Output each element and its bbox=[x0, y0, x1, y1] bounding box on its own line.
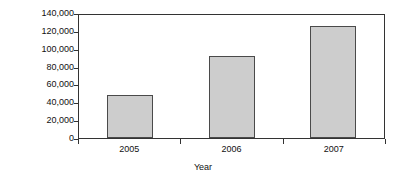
y-tick-mark bbox=[74, 85, 79, 86]
plot-area bbox=[78, 14, 385, 139]
bar-2006[interactable] bbox=[209, 56, 255, 138]
y-tick-label: 60,000 bbox=[46, 80, 74, 89]
x-tick-label-2005: 2005 bbox=[78, 144, 180, 154]
bar-series bbox=[79, 15, 384, 138]
y-tick-mark bbox=[74, 50, 79, 51]
y-tick-label: 80,000 bbox=[46, 63, 74, 72]
y-tick-mark bbox=[74, 68, 79, 69]
y-tick-label: 100,000 bbox=[41, 45, 74, 54]
x-tick-mark bbox=[385, 139, 386, 144]
x-tick-label-2007: 2007 bbox=[283, 144, 385, 154]
bar-chart-figure: Volume 020,00040,00060,00080,000100,0001… bbox=[0, 0, 406, 182]
y-tick-label: 140,000 bbox=[41, 9, 74, 18]
y-tick-label: 120,000 bbox=[41, 27, 74, 36]
x-axis-label: Year bbox=[0, 162, 406, 172]
bar-2005[interactable] bbox=[107, 95, 153, 138]
y-axis-tick-labels: 020,00040,00060,00080,000100,000120,0001… bbox=[26, 0, 74, 182]
bar-slot bbox=[181, 15, 283, 138]
y-tick-label: 20,000 bbox=[46, 116, 74, 125]
bar-2007[interactable] bbox=[310, 26, 356, 138]
y-tick-mark bbox=[74, 32, 79, 33]
x-tick-label-2006: 2006 bbox=[180, 144, 282, 154]
bar-slot bbox=[282, 15, 384, 138]
y-tick-mark bbox=[74, 121, 79, 122]
bar-slot bbox=[79, 15, 181, 138]
y-tick-mark bbox=[74, 103, 79, 104]
y-tick-label: 40,000 bbox=[46, 98, 74, 107]
y-tick-mark bbox=[74, 14, 79, 15]
